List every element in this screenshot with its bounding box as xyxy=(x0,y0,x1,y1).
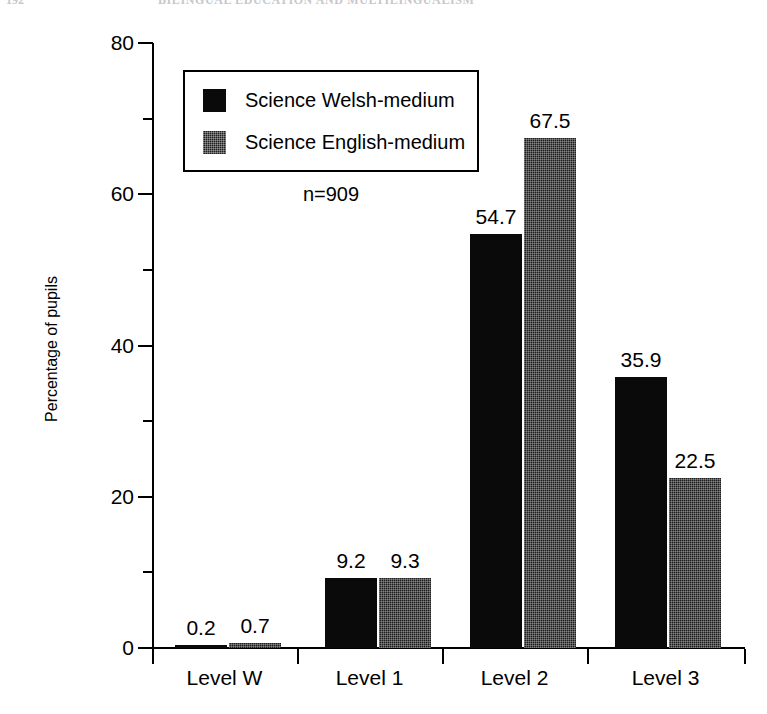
bar-chart: Percentage of pupils 020406080 0.29.254.… xyxy=(0,0,767,714)
bar-welsh-medium xyxy=(470,234,522,648)
y-axis-tick-label: 60 xyxy=(74,183,134,204)
y-axis-tick-label: 40 xyxy=(74,335,134,356)
bar-english-medium xyxy=(229,643,281,648)
chart-legend: Science Welsh-medium Science English-med… xyxy=(183,70,479,172)
x-axis-tick xyxy=(587,649,589,664)
bar-value-label: 9.3 xyxy=(367,550,443,572)
legend-item-label: Science Welsh-medium xyxy=(245,86,455,115)
y-axis-tick-label: 80 xyxy=(74,32,134,53)
bar-english-medium xyxy=(524,138,576,648)
legend-item-label: Science English-medium xyxy=(245,128,465,157)
x-axis-category-label: Level W xyxy=(145,666,305,690)
bar-english-medium xyxy=(669,478,721,648)
y-axis-tick-major xyxy=(138,193,153,195)
x-axis-category-label: Level 2 xyxy=(435,666,595,690)
bar-welsh-medium xyxy=(325,578,377,648)
y-axis-tick-label: 0 xyxy=(74,637,134,658)
x-axis-tick xyxy=(442,649,444,664)
y-axis-tick-major xyxy=(138,496,153,498)
bar-value-label: 67.5 xyxy=(512,110,588,132)
bar-value-label: 0.7 xyxy=(217,615,293,637)
sample-size-annotation: n=909 xyxy=(183,182,479,206)
y-axis-title: Percentage of pupils xyxy=(43,239,61,459)
x-axis-category-label: Level 3 xyxy=(586,666,746,690)
bar-english-medium xyxy=(379,578,431,648)
x-axis-category-label: Level 1 xyxy=(290,666,450,690)
y-axis-tick-major xyxy=(138,647,153,649)
y-axis-tick-major xyxy=(138,42,153,44)
legend-swatch-icon xyxy=(203,131,226,154)
bar-welsh-medium xyxy=(175,645,227,648)
x-axis-tick xyxy=(744,649,746,664)
x-axis-tick xyxy=(297,649,299,664)
bar-welsh-medium xyxy=(615,377,667,648)
bar-value-label: 35.9 xyxy=(603,349,679,371)
y-axis-tick-major xyxy=(138,345,153,347)
bar-value-label: 22.5 xyxy=(657,450,733,472)
x-axis-tick xyxy=(152,649,154,664)
y-axis-tick-label: 20 xyxy=(74,486,134,507)
legend-swatch-icon xyxy=(203,89,226,112)
bar-value-label: 54.7 xyxy=(458,206,534,228)
